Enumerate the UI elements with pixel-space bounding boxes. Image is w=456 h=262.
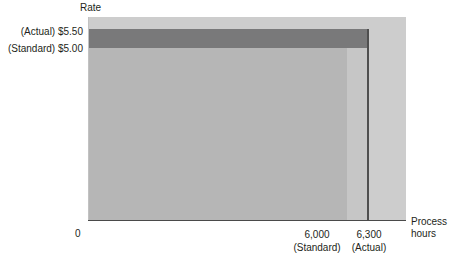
x-tick-standard-hours-value: 6,000 <box>287 228 347 241</box>
x-axis-title-line1: Process <box>411 216 447 228</box>
x-tick-actual-hours-value: 6,300 <box>341 228 397 241</box>
y-tick-label-actual-rate: (Actual) $5.50 <box>21 26 83 38</box>
x-tick-actual-hours-sublabel: (Actual) <box>341 241 397 254</box>
x-axis-line <box>88 220 406 221</box>
actual-hours-vertical-line <box>367 29 369 221</box>
y-axis-title: Rate <box>80 2 101 14</box>
x-tick-standard-hours: 6,000 (Standard) <box>287 228 347 254</box>
region-efficiency-variance <box>347 48 368 220</box>
plot-left-edge-line <box>88 17 89 220</box>
y-tick-label-standard-rate: (Standard) $5.00 <box>8 43 83 55</box>
x-tick-standard-hours-sublabel: (Standard) <box>287 241 347 254</box>
variance-analysis-chart: Rate (Actual) $5.50 (Standard) $5.00 0 6… <box>0 0 456 262</box>
x-axis-title: Process hours <box>411 216 447 240</box>
x-axis-title-line2: hours <box>411 228 447 240</box>
region-standard-cost <box>88 48 347 220</box>
region-rate-variance <box>88 29 368 48</box>
x-tick-actual-hours: 6,300 (Actual) <box>341 228 397 254</box>
x-axis-origin-label: 0 <box>75 228 81 240</box>
